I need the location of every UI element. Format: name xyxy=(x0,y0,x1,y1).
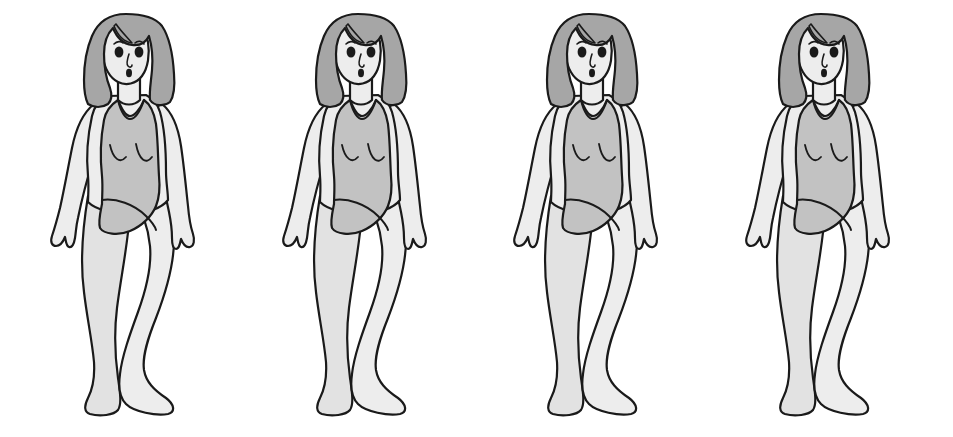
figure-1[interactable] xyxy=(22,0,236,437)
female-figure-icon xyxy=(485,0,699,437)
figure-row xyxy=(0,0,953,437)
figure-rating-scale-sheet xyxy=(0,0,953,437)
mouth xyxy=(126,69,132,77)
eye-left-icon xyxy=(346,46,355,57)
eye-left-icon xyxy=(115,46,124,57)
eye-left-icon xyxy=(578,46,587,57)
mouth xyxy=(358,69,364,77)
female-figure-icon xyxy=(254,0,468,437)
swimsuit-icon xyxy=(99,100,159,234)
swimsuit-icon xyxy=(794,100,854,234)
figure-2[interactable] xyxy=(254,0,468,437)
mouth xyxy=(821,69,827,77)
figure-4[interactable] xyxy=(717,0,931,437)
female-figure-icon xyxy=(22,0,236,437)
mouth xyxy=(589,69,595,77)
eye-left-icon xyxy=(810,46,819,57)
female-figure-icon xyxy=(717,0,931,437)
eye-right-icon xyxy=(598,46,607,57)
eye-right-icon xyxy=(830,46,839,57)
eye-right-icon xyxy=(366,46,375,57)
swimsuit-icon xyxy=(331,100,391,234)
figure-3[interactable] xyxy=(485,0,699,437)
swimsuit-icon xyxy=(562,100,622,234)
eye-right-icon xyxy=(135,46,144,57)
